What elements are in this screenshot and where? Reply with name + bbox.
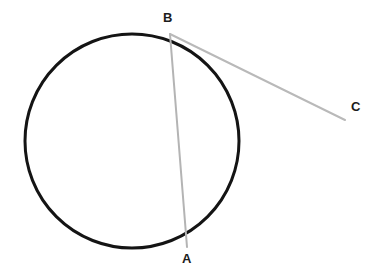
- vertex-label-c: C: [351, 100, 360, 113]
- geometry-diagram: B A C: [0, 0, 382, 277]
- vertex-label-a: A: [182, 252, 191, 265]
- diagram-canvas: [0, 0, 382, 277]
- chord-b-to-a: [170, 34, 187, 247]
- vertex-label-b: B: [163, 11, 172, 24]
- circle-shape: [25, 34, 239, 248]
- line-b-to-c: [170, 34, 345, 120]
